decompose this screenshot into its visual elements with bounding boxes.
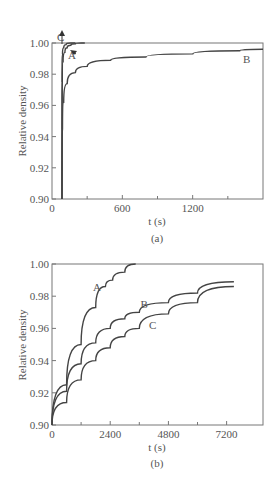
plot-a-x-label: t (s) <box>148 215 166 228</box>
plot-b-y-label: Relative density <box>16 309 28 381</box>
x-tick-label: 0 <box>49 202 55 214</box>
plot-a-panel-label: (a) <box>151 232 164 245</box>
plot-b-annotations: ABC <box>93 281 156 332</box>
plot-a-y-label: Relative density <box>16 85 28 157</box>
y-tick-label: 0.96 <box>30 99 50 111</box>
curve-c <box>62 43 75 199</box>
curve-b <box>62 49 263 199</box>
x-tick-label: 600 <box>114 202 131 214</box>
plot-a-x-ticks: 06001200 <box>49 195 228 214</box>
curve-label-b: B <box>140 298 147 310</box>
x-tick-label: 4800 <box>157 428 180 440</box>
x-tick-label: 2400 <box>99 428 122 440</box>
y-tick-label: 0.92 <box>30 162 49 174</box>
curve-label-a: A <box>93 281 101 293</box>
y-tick-label: 0.98 <box>30 68 50 80</box>
plot-a-curves <box>62 43 263 199</box>
y-tick-label: 0.94 <box>30 131 50 143</box>
chart-figure: 0.900.920.940.960.981.00 06001200 ABC Re… <box>0 0 278 494</box>
y-tick-label: 0.98 <box>30 290 50 302</box>
panel-a: 0.900.920.940.960.981.00 06001200 ABC Re… <box>16 30 263 245</box>
plot-b-x-label: t (s) <box>148 441 166 454</box>
curve-label-c: C <box>149 319 156 331</box>
y-tick-label: 1.00 <box>30 258 50 270</box>
x-tick-label: 0 <box>49 428 55 440</box>
plot-a-annotations: ABC <box>57 30 250 65</box>
y-tick-label: 1.00 <box>30 37 50 49</box>
y-tick-label: 0.94 <box>30 355 50 367</box>
y-tick-label: 0.90 <box>30 193 50 205</box>
x-tick-label: 7200 <box>216 428 239 440</box>
y-tick-label: 0.90 <box>30 419 50 431</box>
y-tick-label: 0.92 <box>30 387 49 399</box>
x-tick-label: 1200 <box>182 202 205 214</box>
plot-b-x-ticks: 0240048007200 <box>49 421 238 440</box>
y-tick-label: 0.96 <box>30 322 50 334</box>
curve-label-b: B <box>243 53 250 65</box>
plot-b-curves <box>52 264 234 425</box>
plot-b-panel-label: (b) <box>151 457 164 470</box>
panel-b: 0.900.920.940.960.981.00 0240048007200 A… <box>16 258 263 470</box>
plot-b-frame <box>52 264 263 425</box>
